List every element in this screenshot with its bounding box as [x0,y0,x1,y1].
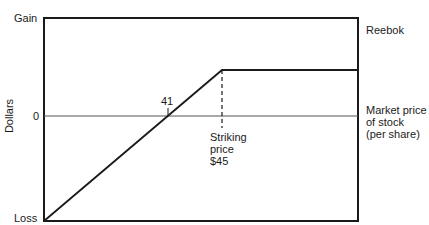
payoff-diagram [0,0,429,225]
x-axis-label-1: Market price [366,104,427,116]
reebok-label: Reebok [366,24,404,36]
strike-label-3: $45 [210,155,228,167]
x-axis-label-2: of stock [366,116,404,128]
payoff-line [44,70,358,221]
strike-label-1: Striking [210,131,247,143]
zero-label: 0 [33,110,39,122]
frame [44,18,358,221]
gain-label: Gain [14,12,37,24]
x-axis-label-3: (per share) [366,128,420,140]
y-axis-label: Dollars [3,99,15,133]
breakeven-label: 41 [161,95,173,107]
strike-label-2: price [210,143,234,155]
loss-label: Loss [14,212,37,224]
